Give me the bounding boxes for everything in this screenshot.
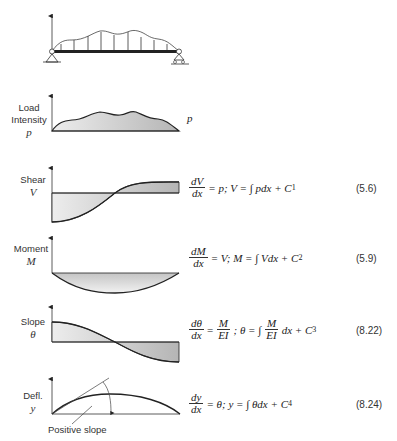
- slope-label-text: Slope: [16, 316, 50, 328]
- shear-label: Shear V: [14, 174, 52, 198]
- load-symbol: p: [10, 126, 48, 138]
- eq-mid-den: EI: [216, 330, 230, 341]
- eq-rhs: = θ; y = ∫ θdx + C: [206, 398, 288, 410]
- shear-label-text: Shear: [14, 174, 52, 186]
- shear-plot: [52, 168, 179, 223]
- shear-equation: dVdx = p; V = ∫ pdx + C1: [186, 176, 296, 199]
- deflection-label-text: Defl.: [16, 390, 50, 402]
- diagram-canvas: [0, 0, 397, 441]
- eq-sub: 1: [292, 183, 296, 192]
- load-label: Load Intensity p: [10, 102, 48, 138]
- eq-number-5-6: (5.6): [356, 183, 377, 194]
- moment-symbol: M: [10, 255, 52, 267]
- load-right-symbol: p: [187, 112, 193, 124]
- beam-diagram: [43, 16, 189, 64]
- moment-plot: [52, 238, 179, 293]
- eq-rhs: = V; M = ∫ Vdx + C: [211, 252, 299, 264]
- moment-label-text: Moment: [10, 243, 52, 255]
- slope-plot: [52, 307, 179, 362]
- slope-equation: dθdx = MEI ; θ = ∫ MEI dx + C3: [186, 318, 316, 341]
- positive-slope-annotation: Positive slope: [48, 424, 108, 436]
- slope-symbol: θ: [16, 328, 50, 340]
- eq-number-8-22: (8.22): [356, 325, 382, 336]
- moment-label: Moment M: [10, 243, 52, 267]
- shear-symbol: V: [14, 186, 52, 198]
- eq-sub: 2: [298, 253, 302, 262]
- slope-label: Slope θ: [16, 316, 50, 340]
- load-intensity-plot: [52, 96, 179, 131]
- deflection-equation: dydx = θ; y = ∫ θdx + C4: [186, 392, 292, 415]
- eq-den: dx: [190, 188, 204, 199]
- deflection-plot: [52, 378, 180, 424]
- eq-den: dx: [191, 258, 205, 269]
- eq-sub: 3: [312, 325, 316, 334]
- eq-rhs2: dx + C: [282, 324, 313, 336]
- load-label-line1: Load: [10, 102, 48, 114]
- eq-rhs1: ; θ = ∫: [234, 324, 262, 336]
- eq-den: dx: [189, 404, 203, 415]
- eq-den: dx: [189, 330, 203, 341]
- eq-number-8-24: (8.24): [356, 399, 382, 410]
- eq-int-den: EI: [264, 330, 278, 341]
- deflection-label: Defl. y: [16, 390, 50, 414]
- load-label-line2: Intensity: [10, 114, 48, 126]
- eq-number-5-9: (5.9): [356, 253, 377, 264]
- deflection-symbol: y: [16, 402, 50, 414]
- eq-rhs: = p; V = ∫ pdx + C: [208, 182, 291, 194]
- eq-sub: 4: [288, 399, 292, 408]
- moment-equation: dMdx = V; M = ∫ Vdx + C2: [186, 246, 302, 269]
